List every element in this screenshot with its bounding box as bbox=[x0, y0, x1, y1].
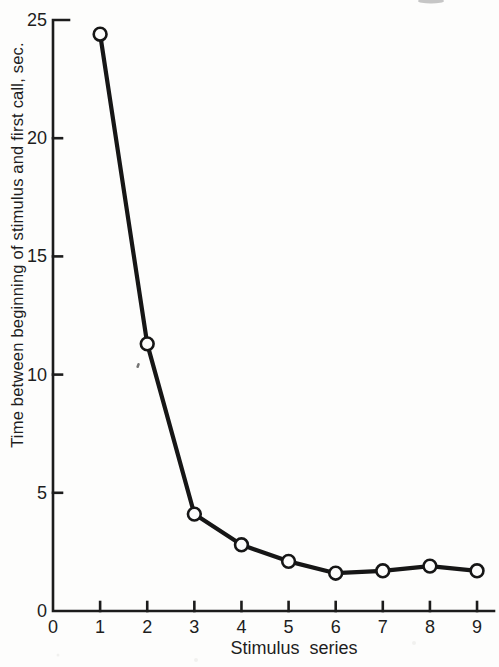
x-tick-label: 4 bbox=[236, 617, 246, 637]
data-point-marker bbox=[376, 564, 389, 577]
scan-smudge bbox=[418, 0, 444, 4]
data-line bbox=[100, 34, 477, 573]
line-chart: 05101520250123456789 Time between beginn… bbox=[0, 0, 499, 667]
x-tick-label: 2 bbox=[142, 617, 152, 637]
data-point-marker bbox=[188, 508, 201, 521]
plot-area: 05101520250123456789 bbox=[27, 10, 494, 637]
data-point-marker bbox=[282, 555, 295, 568]
y-tick-label: 25 bbox=[27, 10, 47, 30]
y-tick-label: 10 bbox=[27, 365, 47, 385]
scan-artifacts bbox=[57, 0, 445, 662]
x-tick-label: 9 bbox=[472, 617, 482, 637]
paper-noise-dot bbox=[412, 641, 416, 645]
scanned-figure-page: 05101520250123456789 Time between beginn… bbox=[0, 0, 499, 667]
x-tick-label: 1 bbox=[95, 617, 105, 637]
y-axis-title: Time between beginning of stimulus and f… bbox=[8, 42, 26, 448]
x-tick-label: 8 bbox=[425, 617, 435, 637]
y-tick-label: 15 bbox=[27, 246, 47, 266]
data-point-marker bbox=[329, 567, 342, 580]
data-point-marker bbox=[141, 337, 154, 350]
paper-noise-dot bbox=[194, 658, 198, 662]
y-tick-label: 20 bbox=[27, 128, 47, 148]
x-axis-title: Stimulus series bbox=[230, 638, 357, 658]
x-tick-label: 6 bbox=[331, 617, 341, 637]
x-tick-label: 3 bbox=[189, 617, 199, 637]
data-point-marker bbox=[94, 28, 107, 41]
y-tick-label: 5 bbox=[37, 483, 47, 503]
data-point-marker bbox=[424, 560, 437, 573]
x-tick-label: 0 bbox=[48, 617, 58, 637]
axes bbox=[53, 20, 494, 611]
data-point-marker bbox=[471, 564, 484, 577]
scan-speck bbox=[136, 363, 140, 369]
x-tick-label: 7 bbox=[378, 617, 388, 637]
paper-noise-dot bbox=[57, 654, 60, 657]
y-tick-label: 0 bbox=[37, 601, 47, 621]
data-point-marker bbox=[235, 538, 248, 551]
x-tick-label: 5 bbox=[284, 617, 294, 637]
